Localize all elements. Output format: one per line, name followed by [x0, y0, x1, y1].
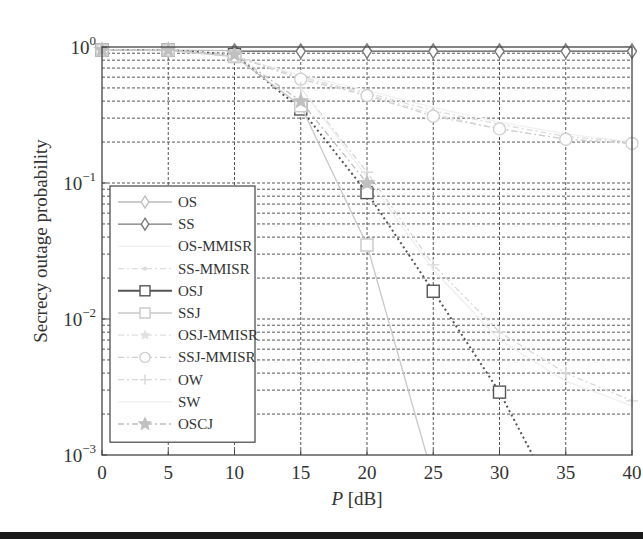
square-marker [140, 308, 150, 318]
legend-label: OSJ-MMISR [178, 327, 258, 343]
x-axis-title-variable: P [330, 488, 343, 509]
square-marker [140, 286, 150, 296]
square-marker [427, 285, 439, 297]
legend-label: SSJ [178, 305, 201, 321]
legend-label: OS [178, 194, 197, 210]
circle-marker [560, 133, 572, 145]
legend-label: SS-MMISR [178, 261, 250, 277]
x-tick-label: 40 [623, 462, 642, 483]
series-ow [295, 82, 638, 407]
series-line [301, 88, 632, 401]
y-axis-title: Secrecy outage probability [30, 139, 51, 343]
x-tick-label: 15 [291, 462, 310, 483]
circle-marker [140, 352, 150, 362]
x-axis-title: P [dB] [330, 488, 382, 509]
square-marker [494, 386, 506, 398]
legend-label: OS-MMISR [178, 238, 252, 254]
x-tick-label: 35 [556, 462, 575, 483]
x-tick-label: 25 [424, 462, 443, 483]
circle-marker [494, 123, 506, 135]
page-bottom-border [0, 532, 643, 539]
x-tick-label: 0 [97, 462, 107, 483]
legend: OSSSOS-MMISRSS-MMISROSJSSJOSJ-MMISRSSJ-M… [110, 186, 258, 442]
x-axis-title-unit: [dB] [348, 488, 383, 509]
legend-label: SS [178, 216, 195, 232]
y-tick-label: 100 [71, 33, 97, 58]
dot-marker [144, 267, 147, 270]
square-marker [361, 239, 373, 251]
legend-label: SW [178, 394, 201, 410]
x-tick-label: 5 [164, 462, 174, 483]
x-tick-label: 10 [225, 462, 244, 483]
chart: 0510152025303540 10010−110−210−3 P [dB] … [0, 0, 643, 539]
y-tick-label: 10−1 [63, 169, 96, 194]
legend-label: SSJ-MMISR [178, 349, 256, 365]
x-tick-label: 20 [358, 462, 377, 483]
legend-label: OSJ [178, 283, 203, 299]
y-tick-label: 10−2 [63, 305, 96, 330]
legend-label: OW [178, 372, 204, 388]
x-tick-label: 30 [490, 462, 509, 483]
circle-marker [427, 110, 439, 122]
legend-label: OSCJ [178, 416, 213, 432]
y-tick-label: 10−3 [63, 441, 96, 466]
circle-marker [361, 89, 373, 101]
plus-marker [560, 367, 572, 379]
y-axis-ticks: 10010−110−210−3 [63, 33, 107, 466]
